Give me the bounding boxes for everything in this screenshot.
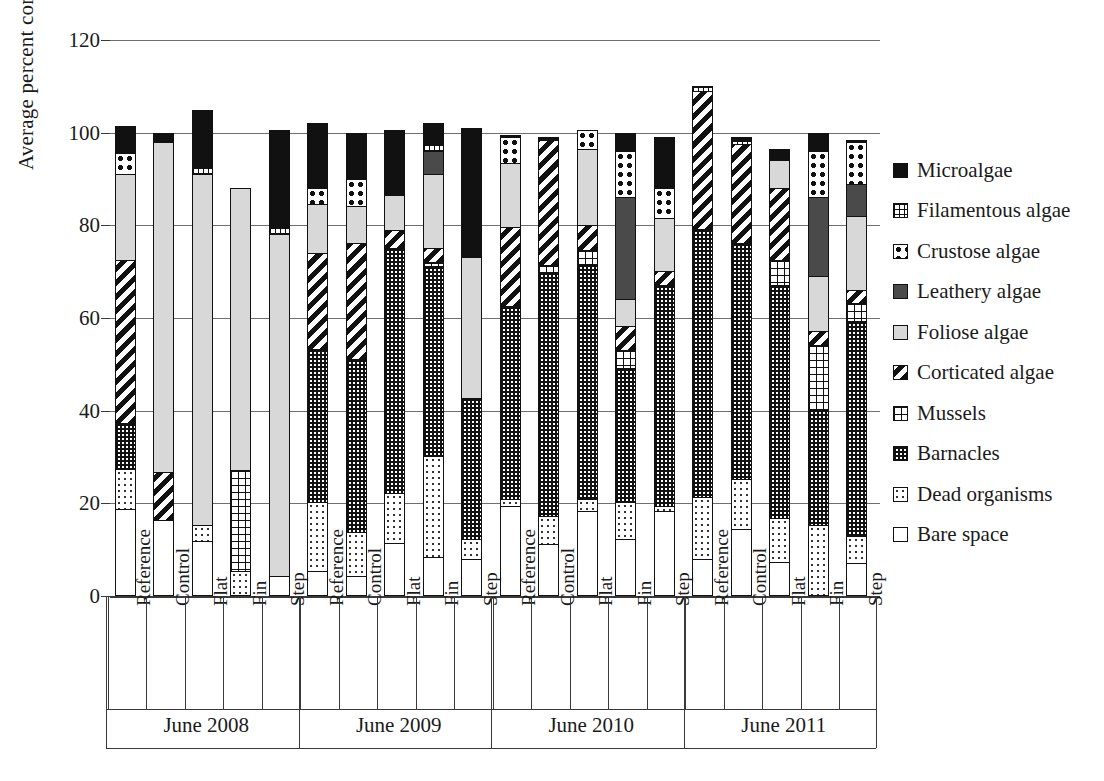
bar-segment-barnacles <box>539 273 558 517</box>
bar-june-2011-fin[interactable] <box>808 133 829 596</box>
legend-item-dead[interactable]: Dead organisms <box>893 474 1098 515</box>
legend-label: Leathery algae <box>917 281 1041 302</box>
bar-june-2011-reference[interactable] <box>692 86 713 596</box>
bar-june-2008-flat[interactable] <box>192 110 213 597</box>
bar-june-2010-flat[interactable] <box>577 130 598 596</box>
bar-segment-bare <box>385 544 404 595</box>
bar-segment-crustose <box>116 154 135 175</box>
legend-item-bare[interactable]: Bare space <box>893 515 1098 556</box>
x-tick-separator <box>762 596 763 709</box>
x-tick-separator <box>608 596 609 709</box>
gridline-60 <box>110 318 880 319</box>
bar-june-2010-control[interactable] <box>538 137 559 596</box>
bar-segment-mussels <box>231 471 250 572</box>
bar-june-2008-step[interactable] <box>269 130 290 596</box>
bar-june-2008-control[interactable] <box>153 133 174 596</box>
y-tick-label-120: 120 <box>44 30 100 51</box>
bar-segment-microalgae <box>424 124 443 145</box>
bar-segment-bare <box>693 560 712 595</box>
label-band-bottom-border <box>106 748 876 749</box>
bar-segment-microalgae <box>347 134 366 180</box>
bar-segment-corticated <box>578 226 597 251</box>
legend-item-leathery[interactable]: Leathery algae <box>893 272 1098 313</box>
x-tick-label-flat: Flat <box>403 576 425 606</box>
bar-june-2009-flat[interactable] <box>384 130 405 596</box>
legend-item-filamentous[interactable]: Filamentous algae <box>893 191 1098 232</box>
bar-segment-crustose <box>616 152 635 198</box>
bar-segment-dead <box>308 503 327 572</box>
bar-segment-barnacles <box>347 360 366 533</box>
bar-june-2011-flat[interactable] <box>769 149 790 596</box>
bar-june-2009-fin[interactable] <box>423 123 444 596</box>
legend-item-microalgae[interactable]: Microalgae <box>893 150 1098 191</box>
x-tick-separator <box>300 596 301 709</box>
x-tick-separator <box>108 596 109 709</box>
legend-item-barnacles[interactable]: Barnacles <box>893 434 1098 475</box>
y-tick-label-80: 80 <box>44 215 100 236</box>
legend-item-mussels[interactable]: Mussels <box>893 393 1098 434</box>
bar-segment-bare <box>154 521 173 595</box>
legend-item-corticated[interactable]: Corticated algae <box>893 353 1098 394</box>
bar-segment-microalgae <box>539 138 558 140</box>
group-separator <box>684 596 685 748</box>
bar-june-2008-reference[interactable] <box>115 126 136 596</box>
legend-item-crustose[interactable]: Crustose algae <box>893 231 1098 272</box>
bar-june-2011-control[interactable] <box>731 137 752 596</box>
x-tick-separator <box>377 596 378 709</box>
legend-swatch-barnacles <box>893 446 908 461</box>
bar-segment-corticated <box>693 92 712 230</box>
bar-segment-bare <box>116 510 135 595</box>
x-tick-separator <box>493 596 494 709</box>
gridline-80 <box>110 225 880 226</box>
legend-label: Crustose algae <box>917 241 1040 262</box>
legend-label: Mussels <box>917 403 986 424</box>
bar-june-2010-reference[interactable] <box>500 135 521 596</box>
bar-june-2009-control[interactable] <box>346 133 367 596</box>
bar-segment-corticated <box>424 249 443 263</box>
bar-segment-foliose <box>308 205 327 253</box>
group-label-june-2010: June 2010 <box>495 713 688 738</box>
x-tick-label-flat: Flat <box>210 576 232 606</box>
bar-segment-mussels <box>616 351 635 369</box>
bar-segment-foliose <box>116 175 135 260</box>
x-tick-label-fin: Fin <box>634 581 656 606</box>
y-tick-mark-20 <box>101 503 110 504</box>
bar-segment-foliose <box>385 196 404 231</box>
bar-segment-barnacles <box>693 230 712 498</box>
x-tick-separator <box>647 596 648 709</box>
x-tick-label-reference: Reference <box>326 529 348 606</box>
x-tick-label-reference: Reference <box>711 529 733 606</box>
y-tick-label-60: 60 <box>44 308 100 329</box>
y-axis-title: Average percent composition <box>14 0 39 170</box>
bar-segment-foliose <box>231 189 250 470</box>
bar-segment-dead <box>347 533 366 577</box>
bar-segment-mussels <box>809 346 828 411</box>
x-tick-separator <box>839 596 840 709</box>
x-tick-label-fin: Fin <box>826 581 848 606</box>
bar-june-2011-step[interactable] <box>846 140 867 596</box>
y-tick-label-20: 20 <box>44 493 100 514</box>
legend-label: Dead organisms <box>917 484 1053 505</box>
bar-segment-corticated <box>847 291 866 304</box>
bar-segment-barnacles <box>501 307 520 501</box>
bar-june-2010-fin[interactable] <box>615 133 636 596</box>
bar-segment-filamentous <box>693 87 712 92</box>
bar-segment-corticated <box>655 272 674 286</box>
bar-june-2009-reference[interactable] <box>307 123 328 596</box>
bar-segment-corticated <box>385 231 404 249</box>
bar-segment-crustose <box>655 189 674 219</box>
bar-june-2008-fin[interactable] <box>230 188 251 596</box>
y-tick-mark-80 <box>101 225 110 226</box>
bar-segment-foliose <box>424 175 443 249</box>
bar-segment-foliose <box>616 300 635 328</box>
bar-segment-foliose <box>501 164 520 229</box>
bar-segment-microalgae <box>501 136 520 138</box>
gridline-120 <box>110 40 880 41</box>
legend-item-foliose[interactable]: Foliose algae <box>893 312 1098 353</box>
bar-june-2009-step[interactable] <box>461 128 482 596</box>
bar-segment-crustose <box>347 180 366 208</box>
bar-segment-microalgae <box>847 141 866 143</box>
bar-june-2010-step[interactable] <box>654 137 675 596</box>
x-tick-separator <box>223 596 224 709</box>
bar-segment-bare <box>655 512 674 595</box>
